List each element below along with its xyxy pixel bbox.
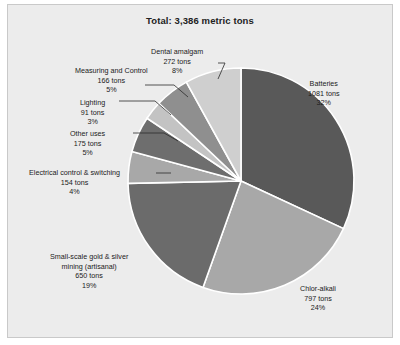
pie-label-artisanal-gold-mining-name2: mining (artisanal) bbox=[50, 262, 128, 272]
pie-label-other-uses-tons: 175 tons bbox=[70, 139, 105, 149]
pie-label-measuring-control-name: Measuring and Control bbox=[75, 66, 148, 76]
pie-label-electrical-control-name: Electrical control & switching bbox=[29, 168, 120, 178]
pie-label-lighting-percent: 3% bbox=[80, 117, 105, 127]
pie-label-chlor-alkali-percent: 24% bbox=[300, 303, 336, 313]
pie-chart: Batteries 1081 tons 32% Chlor-alkali 797… bbox=[8, 5, 393, 338]
pie-label-dental-amalgam-percent: 8% bbox=[151, 66, 203, 76]
pie-label-artisanal-gold-mining-tons: 650 tons bbox=[50, 271, 128, 281]
pie-label-batteries-tons: 1081 tons bbox=[308, 89, 340, 99]
pie-label-lighting-name: Lighting bbox=[80, 98, 105, 108]
pie-label-artisanal-gold-mining-percent: 19% bbox=[50, 281, 128, 291]
pie-label-electrical-control: Electrical control & switching 154 tons … bbox=[29, 168, 120, 197]
pie-label-chlor-alkali-name: Chlor-alkali bbox=[300, 284, 336, 294]
pie-label-chlor-alkali-tons: 797 tons bbox=[300, 294, 336, 304]
pie-label-dental-amalgam-name: Dental amalgam bbox=[151, 47, 203, 57]
pie-label-other-uses-percent: 5% bbox=[70, 148, 105, 158]
pie-label-measuring-control-tons: 166 tons bbox=[75, 76, 148, 86]
pie-label-dental-amalgam: Dental amalgam 272 tons 8% bbox=[151, 47, 203, 76]
pie-label-other-uses-name: Other uses bbox=[70, 129, 105, 139]
pie-label-electrical-control-tons: 154 tons bbox=[29, 178, 120, 188]
pie-label-artisanal-gold-mining-name: Small-scale gold & silver bbox=[50, 252, 128, 262]
pie-label-dental-amalgam-tons: 272 tons bbox=[151, 57, 203, 67]
pie-label-other-uses: Other uses 175 tons 5% bbox=[70, 129, 105, 158]
pie-label-measuring-control-percent: 5% bbox=[75, 85, 148, 95]
pie-label-lighting-tons: 91 tons bbox=[80, 108, 105, 118]
pie-label-lighting: Lighting 91 tons 3% bbox=[80, 98, 105, 127]
pie-label-batteries: Batteries 1081 tons 32% bbox=[308, 79, 340, 108]
pie-label-measuring-control: Measuring and Control 166 tons 5% bbox=[75, 66, 148, 95]
pie-label-batteries-percent: 32% bbox=[308, 98, 340, 108]
pie-label-electrical-control-percent: 4% bbox=[29, 187, 120, 197]
chart-figure: Total: 3,386 metric tons bbox=[7, 4, 393, 338]
pie-label-batteries-name: Batteries bbox=[308, 79, 340, 89]
pie-label-artisanal-gold-mining: Small-scale gold & silver mining (artisa… bbox=[50, 252, 128, 290]
pie-label-chlor-alkali: Chlor-alkali 797 tons 24% bbox=[300, 284, 336, 313]
